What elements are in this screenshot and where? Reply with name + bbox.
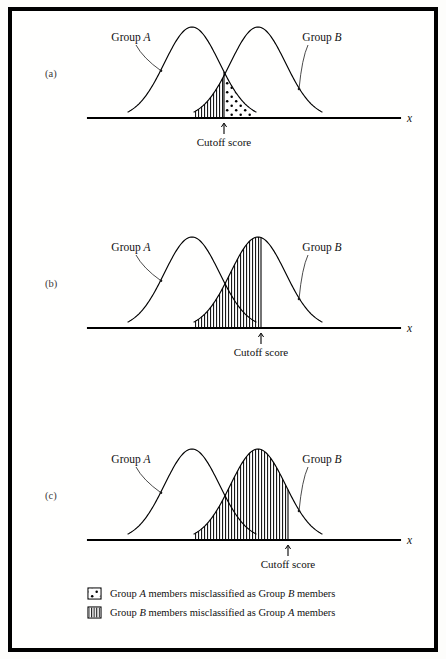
group-b-label-letter: B bbox=[335, 241, 342, 253]
group-a-leader-dot-c bbox=[160, 491, 163, 494]
group-a-leader-c bbox=[136, 467, 161, 493]
group-b-leader-dot-b bbox=[298, 298, 301, 301]
group-a-label-b: Group A bbox=[111, 241, 151, 254]
dotted-region-a bbox=[224, 72, 256, 118]
panel-a: (a)xCutoff scoreGroup AGroup B bbox=[45, 27, 413, 148]
panel-c: (c)xCutoff scoreGroup AGroup B bbox=[45, 449, 413, 570]
legend-segment-5: members bbox=[294, 588, 335, 599]
group-b-label-text: Group bbox=[302, 241, 334, 254]
figure-root: (a)xCutoff scoreGroup AGroup B(b)xCutoff… bbox=[0, 0, 446, 659]
group-b-label-letter: B bbox=[335, 31, 342, 43]
legend-segment-3: members misclassified as Group bbox=[146, 588, 288, 599]
legend-label-2: Group B members misclassified as Group A… bbox=[110, 607, 335, 618]
group-b-label-b: Group B bbox=[302, 241, 341, 254]
group-b-leader-dot-c bbox=[298, 510, 301, 513]
legend-segment-1: Group bbox=[110, 588, 139, 599]
group-b-leader-a bbox=[299, 45, 308, 89]
cutoff-score-label-a: Cutoff score bbox=[197, 136, 252, 148]
legend-segment-3: members misclassified as Group bbox=[146, 607, 288, 618]
axis-label-x-c: x bbox=[406, 534, 413, 546]
group-a-leader-dot-b bbox=[160, 279, 163, 282]
group-a-leader-b bbox=[136, 255, 161, 281]
legend-segment-1: Group bbox=[110, 607, 139, 618]
group-b-label-text: Group bbox=[302, 453, 334, 466]
cutoff-score-label-b: Cutoff score bbox=[234, 346, 289, 358]
group-a-leader-a bbox=[136, 45, 161, 71]
group-b-leader-c bbox=[299, 467, 308, 511]
legend-swatch-dots bbox=[89, 589, 100, 598]
group-b-label-c: Group B bbox=[302, 453, 341, 466]
group-a-label-letter: A bbox=[143, 31, 152, 43]
group-a-leader-dot-a bbox=[160, 69, 163, 72]
group-b-leader-b bbox=[299, 255, 308, 299]
distribution-figure: (a)xCutoff scoreGroup AGroup B(b)xCutoff… bbox=[0, 0, 446, 659]
panel-b: (b)xCutoff scoreGroup AGroup B bbox=[45, 237, 413, 358]
group-a-label-a: Group A bbox=[111, 31, 151, 44]
group-a-label-text: Group bbox=[111, 241, 143, 254]
group-a-label-letter: A bbox=[143, 241, 152, 253]
group-a-label-text: Group bbox=[111, 453, 143, 466]
legend: Group A members misclassified as Group B… bbox=[88, 588, 335, 618]
axis-label-x-a: x bbox=[406, 112, 413, 124]
legend-swatch-hatch bbox=[89, 608, 100, 617]
cutoff-score-label-c: Cutoff score bbox=[261, 558, 316, 570]
axis-label-x-b: x bbox=[406, 322, 413, 334]
panel-label-a: (a) bbox=[45, 68, 57, 80]
group-b-label-letter: B bbox=[335, 453, 342, 465]
hatched-region-a bbox=[194, 76, 224, 118]
panel-label-c: (c) bbox=[45, 490, 57, 502]
group-a-label-text: Group bbox=[111, 31, 143, 44]
group-b-leader-dot-a bbox=[298, 88, 301, 91]
group-a-label-c: Group A bbox=[111, 453, 151, 466]
group-b-label-text: Group bbox=[302, 31, 334, 44]
legend-label-1: Group A members misclassified as Group B… bbox=[110, 588, 335, 599]
legend-segment-5: members bbox=[294, 607, 335, 618]
group-a-label-letter: A bbox=[143, 453, 152, 465]
panel-label-b: (b) bbox=[45, 278, 58, 290]
group-b-label-a: Group B bbox=[302, 31, 341, 44]
